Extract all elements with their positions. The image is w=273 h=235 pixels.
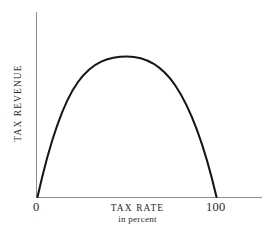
x-axis-subtitle: in percent	[60, 214, 215, 225]
y-axis-title: TAX REVENUE	[13, 55, 23, 151]
x-axis-line	[36, 197, 262, 198]
laffer-curve-figure: 0 100 TAX REVENUE TAX RATE in percent	[0, 0, 273, 235]
laffer-curve-path	[38, 57, 217, 198]
x-axis-title-group: TAX RATE in percent	[60, 203, 215, 225]
x-axis-title: TAX RATE	[60, 203, 215, 214]
curve-plot-area	[0, 0, 273, 235]
y-axis-line	[36, 12, 37, 198]
x-tick-label-0: 0	[33, 201, 39, 214]
